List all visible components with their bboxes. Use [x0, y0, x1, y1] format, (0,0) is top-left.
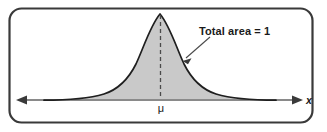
figure-canvas: Total area = 1 μ x [0, 0, 327, 132]
total-area-annotation-label: Total area = 1 [199, 25, 270, 37]
mean-symbol-label: μ [158, 102, 164, 114]
x-axis-variable-label: x [305, 94, 313, 106]
normal-distribution-figure: Total area = 1 μ x [0, 0, 327, 132]
